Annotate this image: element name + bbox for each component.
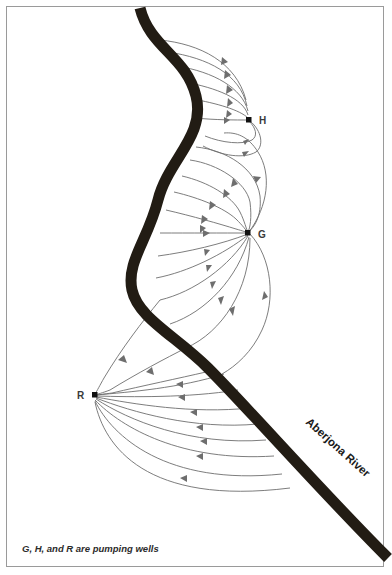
flow-arrow: [226, 85, 233, 94]
flow-arrow: [229, 306, 235, 316]
flowline: [222, 234, 270, 374]
caption-group: G, H, and R are pumping wells: [22, 543, 159, 554]
flow-arrow: [210, 281, 216, 289]
well-label-g: G: [258, 229, 266, 240]
flowline: [95, 372, 206, 395]
well-labels: H G R: [77, 115, 266, 401]
flow-arrow: [196, 453, 203, 460]
flow-arrow: [227, 98, 233, 107]
flow-arrow: [200, 438, 207, 445]
flow-arrow: [262, 291, 268, 300]
flow-arrow: [226, 110, 232, 118]
flow-arrow: [204, 249, 210, 256]
well-dot-r[interactable]: [92, 392, 98, 398]
flowline: [160, 40, 246, 100]
well-dot-g[interactable]: [245, 230, 251, 236]
flowlines-well-r: [95, 300, 290, 491]
flow-arrow: [209, 201, 216, 210]
river-label-group: Aberjona River: [304, 416, 373, 480]
flow-arrow: [224, 70, 231, 79]
caption-text: G, H, and R are pumping wells: [22, 543, 159, 554]
flowline: [95, 348, 186, 395]
flow-arrow: [224, 117, 230, 124]
flow-arrow: [196, 424, 203, 431]
river-label: Aberjona River: [304, 416, 373, 480]
flowline: [160, 236, 248, 300]
flow-arrow: [218, 296, 224, 305]
flowline: [95, 402, 290, 491]
flow-arrow: [176, 381, 183, 388]
flow-arrow: [118, 355, 127, 363]
flow-arrow: [180, 475, 187, 482]
flow-arrow: [201, 215, 208, 224]
flow-arrow: [221, 57, 228, 65]
flowline: [182, 176, 248, 232]
well-dot-h[interactable]: [246, 117, 252, 123]
flowline: [190, 160, 251, 232]
diagram-canvas: H G R Aberjona River G, H, and R are pum…: [0, 0, 392, 575]
well-label-r: R: [77, 390, 85, 401]
figure-container: H G R Aberjona River G, H, and R are pum…: [0, 0, 392, 575]
flow-arrow: [206, 265, 212, 272]
flow-arrow: [203, 230, 210, 237]
flowline: [166, 210, 248, 233]
well-label-h: H: [259, 115, 266, 126]
flowline: [96, 397, 250, 410]
flow-arrow: [190, 409, 197, 416]
flowline: [196, 118, 248, 120]
flowline: [174, 192, 248, 233]
